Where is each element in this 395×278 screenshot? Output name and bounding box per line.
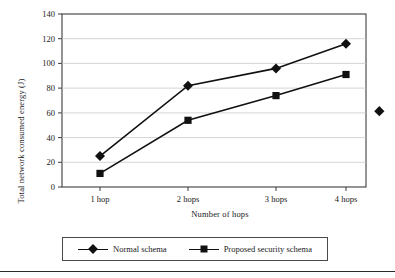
y-tick-label: 80	[47, 83, 56, 93]
x-axis-ticks	[100, 187, 346, 191]
plot-frame	[62, 14, 366, 187]
square-marker-icon	[184, 117, 191, 124]
line-chart-svg: 0 20 40 60 80 100 120 140 1 hop 2 hops 3	[0, 0, 395, 225]
x-tick-label: 2 hops	[177, 194, 199, 204]
legend-label: Normal schema	[113, 244, 167, 254]
square-marker-icon	[272, 92, 279, 99]
x-tick-label: 3 hops	[265, 194, 287, 204]
y-axis-label: Total network consumed energy (J)	[14, 66, 28, 216]
square-marker-icon	[342, 71, 349, 78]
y-tick-label: 120	[42, 34, 55, 44]
x-tick-label: 1 hop	[90, 194, 109, 204]
series-markers-normal-schema	[374, 106, 384, 116]
bottom-divider	[0, 271, 395, 272]
x-tick-label: 4 hops	[335, 194, 357, 204]
diamond-marker-icon	[374, 106, 384, 116]
y-tick-label: 60	[47, 108, 56, 118]
figure-container: Total network consumed energy (J)	[0, 0, 395, 278]
square-marker-icon	[189, 244, 219, 254]
legend-item-normal-schema: Normal schema	[78, 244, 167, 254]
y-tick-label: 140	[42, 9, 55, 19]
square-marker-icon	[96, 170, 103, 177]
x-axis-label: Number of hops	[60, 209, 380, 219]
y-tick-label: 20	[47, 157, 56, 167]
legend-label: Proposed security schema	[224, 244, 312, 254]
chart-legend: Normal schema Proposed security schema	[62, 237, 328, 261]
diamond-marker-icon	[78, 244, 108, 254]
y-axis-ticks	[58, 14, 62, 187]
y-tick-label: 40	[47, 133, 56, 143]
chart-area: Total network consumed energy (J)	[0, 0, 395, 225]
x-tick-labels: 1 hop 2 hops 3 hops 4 hops	[90, 194, 357, 204]
legend-item-proposed-security-schema: Proposed security schema	[189, 244, 312, 254]
y-tick-labels: 0 20 40 60 80 100 120 140	[42, 9, 55, 192]
y-tick-label: 0	[51, 182, 55, 192]
y-tick-label: 100	[42, 58, 55, 68]
